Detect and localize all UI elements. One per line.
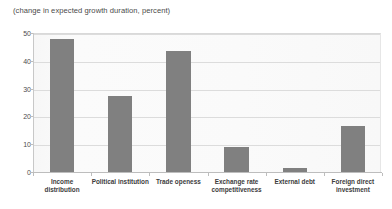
bar xyxy=(166,51,190,172)
x-tick-mark xyxy=(324,173,325,176)
x-axis-label: Exchange rate competitiveness xyxy=(208,178,266,195)
y-tick-label-20: 20 xyxy=(5,113,31,120)
y-tick-label-40: 40 xyxy=(5,57,31,64)
x-axis-label: Political institution xyxy=(91,178,149,186)
x-axis-label: External debt xyxy=(266,178,324,186)
bar xyxy=(50,39,74,172)
y-tick-label-0: 0 xyxy=(5,169,31,176)
x-axis-label: Trade openess xyxy=(149,178,207,186)
x-tick-mark xyxy=(266,173,267,176)
x-tick-mark xyxy=(91,173,92,176)
x-tick-mark xyxy=(33,173,34,176)
y-tick-label-30: 30 xyxy=(5,85,31,92)
y-tick-label-50: 50 xyxy=(5,30,31,37)
x-tick-mark xyxy=(382,173,383,176)
x-tick-mark xyxy=(208,173,209,176)
x-axis-label: Income distribution xyxy=(33,178,91,195)
bar-chart: (change in expected growth duration, per… xyxy=(0,0,392,209)
bar xyxy=(224,147,248,172)
x-axis-label: Foreign direct investment xyxy=(324,178,382,195)
bar xyxy=(108,96,132,172)
chart-title: (change in expected growth duration, per… xyxy=(13,6,170,16)
bar xyxy=(283,168,307,172)
bar xyxy=(341,126,365,172)
y-axis-ticks: 01020304050 xyxy=(0,0,31,209)
bars-layer xyxy=(33,33,382,172)
y-tick-label-10: 10 xyxy=(5,141,31,148)
x-tick-mark xyxy=(149,173,150,176)
